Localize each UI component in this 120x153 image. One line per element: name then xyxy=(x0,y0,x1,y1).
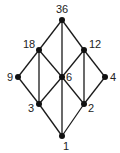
edge-36-12 xyxy=(62,20,84,50)
edge-3-1 xyxy=(39,104,62,136)
node-3 xyxy=(36,101,42,107)
node-label-1: 1 xyxy=(63,140,69,152)
node-2 xyxy=(81,101,87,107)
edge-36-18 xyxy=(39,20,62,50)
edge-12-4 xyxy=(84,50,105,77)
node-6 xyxy=(59,74,65,80)
node-label-36: 36 xyxy=(56,3,68,15)
node-9 xyxy=(15,74,21,80)
edge-4-2 xyxy=(84,77,105,104)
node-label-2: 2 xyxy=(88,102,94,114)
edge-6-3 xyxy=(39,77,62,104)
edge-2-1 xyxy=(62,104,84,136)
node-12 xyxy=(81,47,87,53)
edge-18-9 xyxy=(18,50,39,77)
node-label-9: 9 xyxy=(7,71,13,83)
edge-18-6 xyxy=(39,50,62,77)
node-label-6: 6 xyxy=(66,71,72,83)
node-18 xyxy=(36,47,42,53)
node-36 xyxy=(59,17,65,23)
node-label-3: 3 xyxy=(28,102,34,114)
node-label-4: 4 xyxy=(110,71,116,83)
node-label-12: 12 xyxy=(89,38,101,50)
node-1 xyxy=(59,133,65,139)
node-label-18: 18 xyxy=(23,38,35,50)
node-4 xyxy=(102,74,108,80)
hasse-diagram: 361812964321 xyxy=(0,0,120,153)
edge-9-3 xyxy=(18,77,39,104)
